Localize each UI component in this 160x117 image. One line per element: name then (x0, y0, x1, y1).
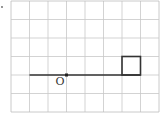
point-o-marker (65, 74, 68, 77)
grid-diagram: O (0, 0, 160, 117)
point-o-label: O (56, 75, 65, 88)
stray-dot-mark (1, 6, 3, 8)
unit-square (122, 57, 141, 76)
